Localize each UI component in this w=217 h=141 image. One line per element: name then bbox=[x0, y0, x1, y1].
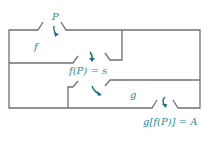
machine-g-label: g bbox=[130, 90, 136, 100]
machine-f-label: f bbox=[34, 42, 38, 52]
output-label: g[f(P)] = A bbox=[143, 117, 197, 127]
intermediate-label: f(P) = s bbox=[69, 66, 107, 76]
input-label: P bbox=[52, 12, 59, 22]
function-composition-diagram: P f f(P) = s g g[f(P)] = A bbox=[0, 0, 217, 141]
middle-arrowhead-out bbox=[97, 91, 102, 96]
input-arrowhead bbox=[54, 32, 59, 37]
middle-arrowhead-in bbox=[89, 58, 95, 62]
output-arrowhead bbox=[162, 104, 167, 108]
